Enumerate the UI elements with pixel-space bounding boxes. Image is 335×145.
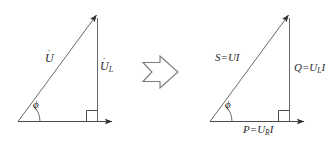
label-voltage-phasor: ˙U	[45, 52, 54, 64]
left-right-angle-marker	[87, 111, 98, 122]
implies-arrow-shape	[143, 56, 178, 88]
label-phase-angle-right: ϕ	[225, 99, 231, 110]
label-active-power-suffix: I	[270, 123, 274, 135]
label-active-power: P=URI	[243, 124, 273, 136]
right-hypotenuse	[210, 15, 289, 122]
dot-accent-u: ˙	[47, 49, 50, 59]
dot-accent-ul: ˙	[102, 57, 105, 67]
label-phase-angle-left: ϕ	[33, 99, 39, 110]
label-apparent-power: S=UI	[215, 52, 240, 63]
label-active-power-prefix: P=U	[243, 123, 265, 135]
label-reactive-power-suffix: I	[321, 61, 325, 73]
label-reactive-power: Q=ULI	[294, 62, 325, 74]
label-reactive-power-prefix: Q=U	[294, 61, 317, 73]
right-right-angle-marker	[279, 111, 290, 122]
left-hypotenuse	[18, 15, 97, 122]
label-inductor-voltage-subscript: L	[109, 65, 114, 74]
label-inductor-voltage-phasor: ˙UL	[100, 60, 113, 74]
diagram-canvas	[0, 0, 335, 145]
phasor-power-triangle-figure: ˙U ˙UL ϕ S=UI Q=ULI P=URI ϕ	[0, 0, 335, 145]
